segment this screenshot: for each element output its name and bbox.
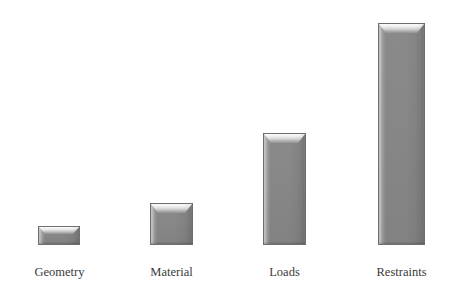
bar-top-bevel [264,134,305,143]
bar-bottom-bevel [151,242,192,244]
plot-area [0,0,452,246]
bar-material[interactable] [150,203,193,245]
x-tick-label-loads: Loads [225,265,344,279]
bar-restraints[interactable] [378,23,425,245]
bar-inner-shading [380,24,423,244]
bar-chart: Geometry Material Loads Restraints [0,0,452,299]
bar-inner-shading [265,134,304,244]
bar-top-bevel [151,204,192,213]
bar-top-bevel [39,227,79,234]
bar-bottom-bevel [379,242,424,244]
bar-top-bevel [379,24,424,33]
bar-loads[interactable] [263,133,306,245]
bar-bottom-bevel [264,242,305,244]
x-tick-label-material: Material [112,265,231,279]
x-tick-label-restraints: Restraints [342,265,452,279]
bar-bottom-bevel [39,242,79,244]
bar-geometry[interactable] [38,226,80,245]
x-tick-label-geometry: Geometry [0,265,119,279]
